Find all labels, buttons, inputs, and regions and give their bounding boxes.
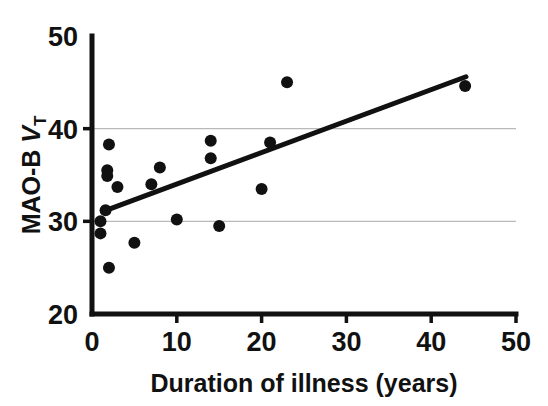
x-axis-title: Duration of illness (years): [150, 369, 457, 397]
y-tick-label-50: 50: [48, 22, 78, 52]
data-point-2: [100, 204, 112, 216]
x-tick-label-10: 10: [162, 327, 192, 357]
data-point-9: [145, 178, 157, 190]
x-tick-label-30: 30: [331, 327, 361, 357]
x-tick-label-50: 50: [501, 327, 531, 357]
scatter-plot-figure: 01020304050 20304050 Duration of illness…: [0, 0, 548, 406]
data-point-15: [256, 183, 268, 195]
data-point-6: [103, 262, 115, 274]
data-point-7: [111, 181, 123, 193]
data-point-16: [264, 137, 276, 149]
data-point-8: [128, 237, 140, 249]
data-point-5: [101, 170, 113, 182]
data-point-1: [94, 227, 106, 239]
data-point-10: [154, 162, 166, 174]
data-point-11: [171, 213, 183, 225]
x-tick-label-0: 0: [84, 327, 99, 357]
data-point-17: [281, 76, 293, 88]
y-tick-label-20: 20: [48, 300, 78, 330]
y-tick-label-30: 30: [48, 207, 78, 237]
chart-canvas: 01020304050 20304050 Duration of illness…: [0, 0, 548, 406]
data-point-13: [205, 152, 217, 164]
data-point-18: [459, 80, 471, 92]
x-tick-label-20: 20: [247, 327, 277, 357]
data-point-3: [103, 138, 115, 150]
data-point-12: [205, 135, 217, 147]
y-axis-title-subscript: T: [31, 115, 50, 126]
y-tick-label-40: 40: [48, 115, 78, 145]
data-point-0: [94, 215, 106, 227]
y-axis-title-main: MAO-B: [17, 143, 45, 235]
data-point-14: [213, 220, 225, 232]
x-tick-label-40: 40: [416, 327, 446, 357]
